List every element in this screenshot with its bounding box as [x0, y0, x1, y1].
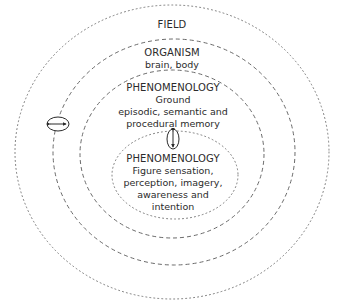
phenomenology-figure-line-2: perception, imagery, [112, 177, 234, 189]
phenomenology-ground-line-2: episodic, semantic and [112, 106, 234, 118]
phenomenology-ground-title: PHENOMENOLOGY [112, 82, 234, 94]
field-label: FIELD [122, 19, 222, 31]
field-title: FIELD [122, 19, 222, 31]
organism-label: ORGANISM brain, body [122, 47, 222, 71]
phenomenology-figure-line-1: Figure sensation, [112, 165, 234, 177]
organism-boundary [53, 39, 295, 265]
double-arrow-horizontal-icon [47, 117, 69, 131]
phenomenology-figure-line-4: intention [112, 201, 234, 213]
phenomenology-figure-label: PHENOMENOLOGY Figure sensation, percepti… [112, 153, 234, 213]
phenomenology-figure-title: PHENOMENOLOGY [112, 153, 234, 165]
phenomenology-ground-line-1: Ground [112, 94, 234, 106]
phenomenology-figure-line-3: awareness and [112, 189, 234, 201]
organism-title: ORGANISM [122, 47, 222, 59]
double-arrow-vertical-icon [167, 129, 179, 149]
phenomenology-ground-label: PHENOMENOLOGY Ground episodic, semantic … [112, 82, 234, 130]
organism-line-1: brain, body [122, 59, 222, 71]
phenomenology-ground-line-3: procedural memory [112, 118, 234, 130]
